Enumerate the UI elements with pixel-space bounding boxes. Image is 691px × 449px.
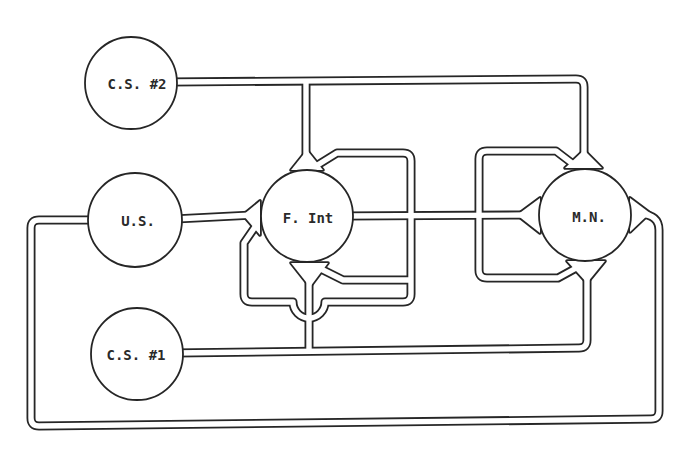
node-fint-label: F. Int [283,210,334,226]
node-us-label: U.S. [121,213,155,229]
synapse-fint-bottom-fill [291,263,328,287]
node-cs2-label: C.S. #2 [107,76,166,92]
pipe-fint-to-mn-fill [345,215,526,216]
synapse-mn-right-fill [630,198,650,232]
synapse-mn-left-fill [517,198,540,233]
node-us: U.S. [88,173,182,267]
node-mn: M.N. [539,169,631,261]
node-cs1-label: C.S. #1 [106,347,165,363]
network-diagram: C.S. #2 U.S. F. Int M.N. C.S. #1 [0,0,691,449]
node-mn-label: M.N. [572,209,606,225]
node-cs2: C.S. #2 [85,37,177,129]
node-fint: F. Int [261,170,353,262]
node-cs1: C.S. #1 [91,308,183,400]
diagram-canvas: C.S. #2 U.S. F. Int M.N. C.S. #1 [0,0,691,449]
